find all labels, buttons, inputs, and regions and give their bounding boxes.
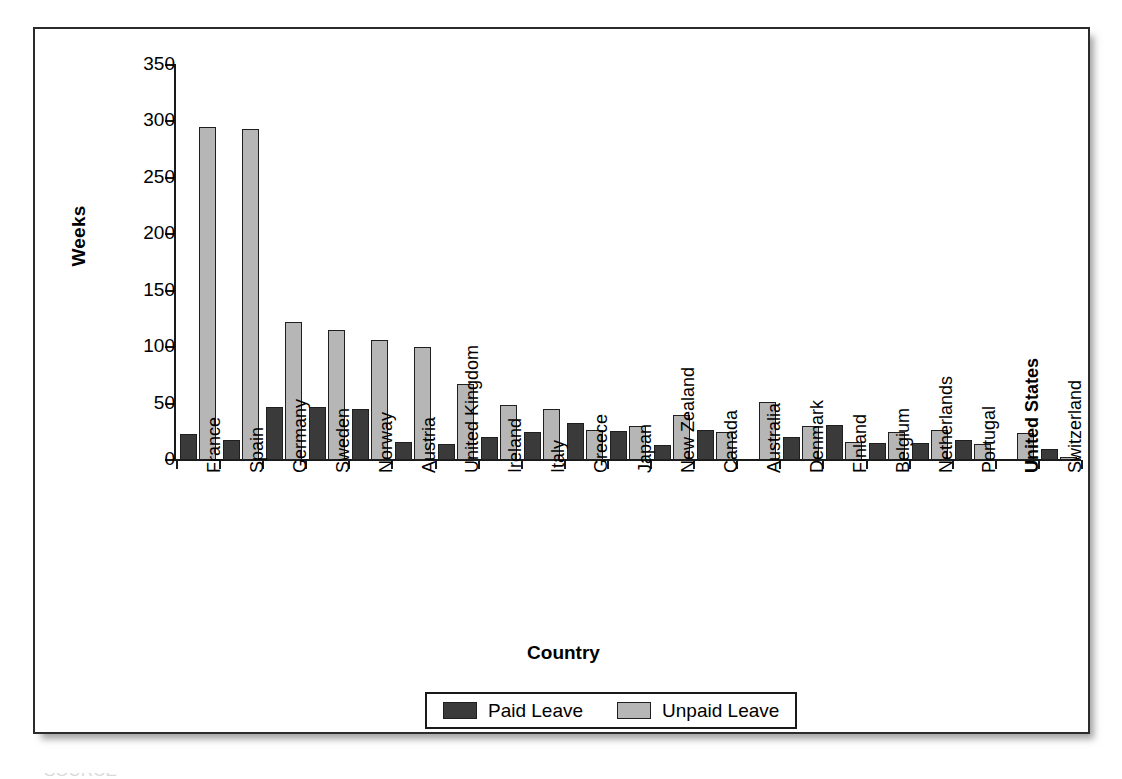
chart-legend: Paid LeaveUnpaid Leave xyxy=(425,692,797,729)
x-axis-label: Japan xyxy=(636,424,654,473)
bar-group xyxy=(693,64,736,460)
bar-paid xyxy=(438,444,455,460)
x-axis-label: Finland xyxy=(851,414,869,473)
bar-group xyxy=(736,64,779,460)
bar-group xyxy=(478,64,521,460)
x-axis-label: United States xyxy=(1023,358,1041,473)
bar-paid xyxy=(697,430,714,460)
bar-group xyxy=(564,64,607,460)
y-axis-tick-label: 300 xyxy=(113,110,175,129)
y-axis-tick-label: 250 xyxy=(113,167,175,186)
bar-paid xyxy=(352,409,369,460)
figure-frame: Weeks 350300250200150100500 FranceSpainG… xyxy=(33,27,1090,734)
y-axis-tick-label: 200 xyxy=(113,223,175,242)
x-axis-label: United Kingdom xyxy=(463,345,481,473)
x-axis-label: Belgium xyxy=(894,408,912,473)
legend-label: Unpaid Leave xyxy=(662,701,779,720)
bar-paid xyxy=(309,407,326,460)
bar-group xyxy=(348,64,391,460)
bar-unpaid xyxy=(199,127,216,460)
x-axis-label: Australia xyxy=(765,403,783,473)
y-axis-tick-label: 100 xyxy=(113,336,175,355)
y-axis-tick-label: 150 xyxy=(113,280,175,299)
bar-paid xyxy=(1041,449,1058,460)
bar-paid xyxy=(567,423,584,460)
bar-paid xyxy=(654,445,671,460)
caption-text: SOURCE xyxy=(44,773,117,779)
x-axis-label: Ireland xyxy=(506,418,524,473)
bar-group xyxy=(952,64,995,460)
bar-paid xyxy=(266,407,283,460)
x-axis-label: Italy xyxy=(549,440,567,473)
x-axis-label: Canada xyxy=(722,410,740,473)
bar-paid xyxy=(524,432,541,460)
x-axis-label: Spain xyxy=(248,427,266,473)
bar-group xyxy=(866,64,909,460)
x-axis-label: Norway xyxy=(377,412,395,473)
legend-label: Paid Leave xyxy=(488,701,583,720)
legend-swatch-paid xyxy=(443,702,477,719)
bar-paid xyxy=(481,437,498,460)
x-axis-label: Switzerland xyxy=(1066,380,1084,473)
bar-paid xyxy=(955,440,972,460)
x-axis-tick xyxy=(176,460,178,469)
legend-item: Paid Leave xyxy=(443,701,583,720)
x-axis-label: Netherlands xyxy=(937,376,955,473)
bar-group xyxy=(219,64,262,460)
bar-paid xyxy=(869,443,886,460)
y-axis-tick-label: 350 xyxy=(113,54,175,73)
x-axis-label: New Zealand xyxy=(679,367,697,473)
legend-swatch-unpaid xyxy=(617,702,651,719)
bar-paid xyxy=(223,440,240,460)
bar-group xyxy=(391,64,434,460)
legend-item: Unpaid Leave xyxy=(617,701,779,720)
bar-paid xyxy=(395,442,412,460)
bar-paid xyxy=(783,437,800,460)
x-axis-label: Germany xyxy=(291,399,309,473)
caption-strip: SOURCE xyxy=(44,773,464,779)
bar-group xyxy=(822,64,865,460)
x-axis-label: Greece xyxy=(592,414,610,473)
bar-group xyxy=(607,64,650,460)
x-axis-label: France xyxy=(205,417,223,473)
x-axis-title: Country xyxy=(35,642,1092,664)
bar-unpaid xyxy=(242,129,259,460)
x-axis-label: Sweden xyxy=(334,408,352,473)
x-axis-label: Austria xyxy=(420,417,438,473)
bar-group xyxy=(176,64,219,460)
bar-paid xyxy=(826,425,843,460)
y-axis-title: Weeks xyxy=(68,166,90,306)
chart-plot-area: Weeks 350300250200150100500 FranceSpainG… xyxy=(35,29,1092,736)
bar-group xyxy=(305,64,348,460)
x-axis-label: Portugal xyxy=(980,406,998,473)
y-axis-tick-label: 50 xyxy=(113,393,175,412)
bar-paid xyxy=(610,431,627,460)
bar-group xyxy=(521,64,564,460)
bar-paid xyxy=(912,443,929,460)
y-axis-tick-label: 0 xyxy=(113,449,175,468)
bar-paid xyxy=(180,434,197,460)
x-axis-label: Denmark xyxy=(808,400,826,473)
